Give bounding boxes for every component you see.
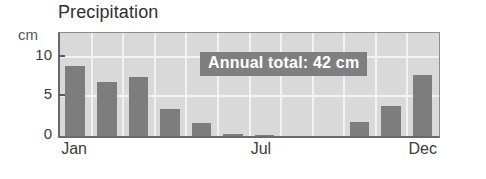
precipitation-bar-chart: Precipitation cm 0510 JanJulDec Annual t… — [0, 0, 486, 179]
bar — [192, 123, 212, 136]
y-tick-label: 10 — [35, 46, 52, 63]
plot-inner — [60, 33, 439, 136]
y-tick-label: 0 — [44, 125, 52, 142]
vertical-gridline — [122, 33, 124, 136]
vertical-gridline — [91, 33, 93, 136]
bar — [223, 134, 243, 136]
vertical-gridline — [343, 33, 345, 136]
bar — [97, 82, 117, 136]
vertical-gridline — [375, 33, 377, 136]
horizontal-gridline — [60, 95, 439, 97]
vertical-gridline — [217, 33, 219, 136]
vertical-gridline — [185, 33, 187, 136]
chart-title: Precipitation — [58, 2, 158, 23]
x-tick-label: Dec — [409, 140, 437, 158]
vertical-gridline — [406, 33, 408, 136]
vertical-gridline — [280, 33, 282, 136]
bar — [65, 66, 85, 136]
bar — [413, 75, 433, 136]
bar — [129, 77, 149, 136]
plot-area — [58, 32, 440, 138]
y-tick-label: 5 — [44, 85, 52, 102]
bar — [381, 106, 401, 136]
annual-total-annotation: Annual total: 42 cm — [200, 52, 367, 76]
bar — [160, 109, 180, 136]
y-axis-tick-labels: 0510 — [6, 0, 52, 179]
x-tick-label: Jul — [251, 140, 271, 158]
y-tick-mark — [58, 94, 65, 96]
x-tick-label: Jan — [61, 140, 87, 158]
bar — [255, 135, 275, 137]
bar — [350, 122, 370, 136]
vertical-gridline — [154, 33, 156, 136]
vertical-gridline — [312, 33, 314, 136]
vertical-gridline — [249, 33, 251, 136]
y-tick-mark — [58, 55, 65, 57]
